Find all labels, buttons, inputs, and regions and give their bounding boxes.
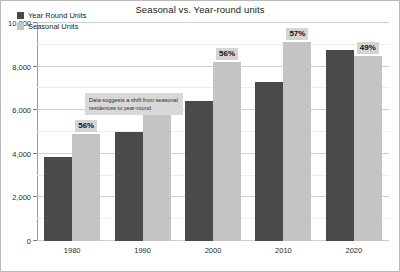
legend-swatch-icon [17,23,24,30]
bar-group: 56%1980 [37,23,107,241]
legend-label: Year Round Units [28,11,87,20]
x-axis-tick-label: 2020 [345,246,362,255]
bar[interactable] [326,50,354,241]
chart-container: Seasonal vs. Year-round units 02,0004,00… [0,0,400,272]
bar-group: 49%2020 [319,23,389,241]
y-axis-tick-label: 2,000 [12,193,31,202]
legend-swatch-icon [17,12,24,19]
annotation-tooltip: Data suggests a shift from seasonal resi… [85,93,183,115]
legend-item-seasonal: Seasonal Units [17,22,87,31]
y-axis-tick-label: 0 [27,237,31,246]
bar[interactable] [44,157,72,241]
bar[interactable] [115,132,143,241]
bar[interactable]: 57% [283,42,311,241]
x-axis-tick-label: 1980 [64,246,81,255]
bar-group: 57%2010 [248,23,318,241]
y-axis-tick-label: 6,000 [12,106,31,115]
bar[interactable]: 49% [354,56,382,241]
bar-group: 56%2000 [178,23,248,241]
bar[interactable] [185,101,213,241]
x-axis-tick-label: 1990 [134,246,151,255]
bar-value-label: 57% [286,28,308,40]
y-axis-tick-label: 4,000 [12,149,31,158]
bar-value-label: 56% [216,48,238,60]
bar-value-label: 49% [357,42,379,54]
bar[interactable]: 57% [143,111,171,241]
y-axis-tick-label: 8,000 [12,62,31,71]
bar-value-label: 56% [75,120,97,132]
bar[interactable]: 56% [213,62,241,241]
x-axis-tick-label: 2010 [275,246,292,255]
x-axis-tick-label: 2000 [205,246,222,255]
plot-area: 02,0004,0006,0008,00010,000 56%198057%19… [37,23,389,241]
bar-group: 57%1990 [107,23,177,241]
legend-label: Seasonal Units [28,22,78,31]
bar[interactable]: 56% [72,134,100,241]
chart-legend: Year Round Units Seasonal Units [17,11,87,33]
bar[interactable] [255,82,283,241]
legend-item-year-round: Year Round Units [17,11,87,20]
bar-groups: 56%198057%199056%200057%201049%2020 [37,23,389,241]
